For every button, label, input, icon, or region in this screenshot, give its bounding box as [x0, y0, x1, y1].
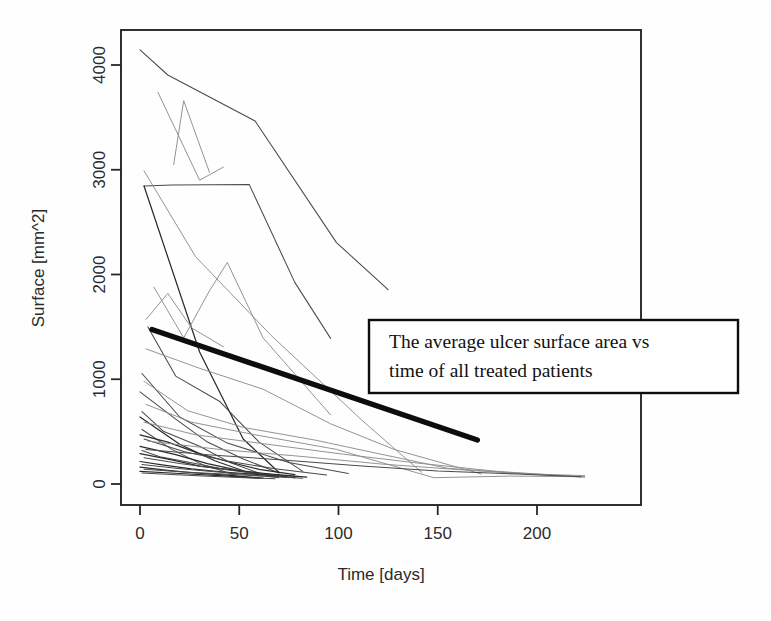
y-tick-label: 3000 [90, 151, 109, 189]
annotation-line-1: The average ulcer surface area vs [389, 331, 649, 352]
y-tick-label: 0 [90, 479, 109, 488]
series-lines [140, 50, 585, 479]
x-tick-label: 0 [135, 524, 144, 543]
patient-line [144, 184, 331, 338]
figure-root: 050100150200 01000200030004000 Time [day… [0, 0, 771, 621]
plot-frame [121, 30, 641, 505]
y-tick-label: 4000 [90, 46, 109, 84]
x-tick-label: 100 [324, 524, 352, 543]
x-tick-label: 50 [230, 524, 249, 543]
x-tick-label: 150 [424, 524, 452, 543]
y-axis-tick-labels: 01000200030004000 [90, 46, 109, 489]
y-axis-ticks [111, 65, 121, 484]
y-tick-label: 1000 [90, 360, 109, 398]
patient-line [144, 422, 581, 477]
y-axis-title: Surface [mm^2] [29, 209, 48, 328]
annotation-callout: The average ulcer surface area vs time o… [369, 320, 738, 393]
ulcer-surface-chart: 050100150200 01000200030004000 Time [day… [0, 0, 771, 621]
x-axis-title: Time [days] [337, 565, 424, 584]
x-axis-tick-labels: 050100150200 [135, 524, 551, 543]
patient-line [158, 92, 224, 180]
y-tick-label: 2000 [90, 256, 109, 294]
x-tick-label: 200 [523, 524, 551, 543]
patient-line [140, 50, 388, 290]
annotation-line-2: time of all treated patients [389, 360, 593, 381]
x-axis-ticks [140, 505, 537, 515]
